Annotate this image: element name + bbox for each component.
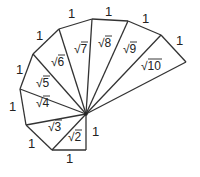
spoke-8 <box>86 21 128 114</box>
svg-text:√5: √5 <box>36 76 50 90</box>
spoke-4 <box>20 89 86 114</box>
unit-label: 1 <box>36 28 43 43</box>
unit-edge-6 <box>59 19 92 29</box>
unit-label: 1 <box>28 136 35 151</box>
unit-label: 1 <box>68 6 75 21</box>
spoke-7 <box>86 19 92 114</box>
unit-label: 1 <box>9 99 16 114</box>
unit-edge-3 <box>20 89 26 125</box>
svg-text:√2: √2 <box>68 130 82 144</box>
unit-label: 1 <box>66 151 73 166</box>
sqrt-label-5: √5 <box>36 76 50 90</box>
edge-labels: 1111111111√2√3√4√5√6√7√8√9√10 <box>9 4 183 166</box>
svg-text:√4: √4 <box>36 96 50 110</box>
unit-label: 1 <box>142 11 149 26</box>
svg-text:√6: √6 <box>51 55 65 69</box>
unit-label: 1 <box>105 4 112 19</box>
svg-text:√8: √8 <box>98 36 112 50</box>
svg-text:√10: √10 <box>141 59 161 73</box>
sqrt-label-10: √10 <box>141 59 162 73</box>
sqrt-label-2: √2 <box>68 130 82 144</box>
unit-label: 1 <box>176 33 183 48</box>
spiral-of-theodorus-diagram: 1111111111√2√3√4√5√6√7√8√9√10 <box>0 0 200 177</box>
sqrt-label-9: √9 <box>123 42 137 56</box>
unit-label: 1 <box>16 62 23 77</box>
spoke-10 <box>86 62 186 114</box>
sqrt-label-4: √4 <box>36 96 50 110</box>
svg-text:√7: √7 <box>74 42 88 56</box>
center-point <box>84 112 88 116</box>
sqrt-label-3: √3 <box>48 120 62 134</box>
unit-label: 1 <box>92 124 99 139</box>
sqrt-label-6: √6 <box>51 55 65 69</box>
sqrt-label-8: √8 <box>98 36 112 50</box>
unit-edge-7 <box>92 19 128 21</box>
sqrt-label-7: √7 <box>74 42 88 56</box>
svg-text:√9: √9 <box>123 42 137 56</box>
svg-text:√3: √3 <box>48 120 62 134</box>
